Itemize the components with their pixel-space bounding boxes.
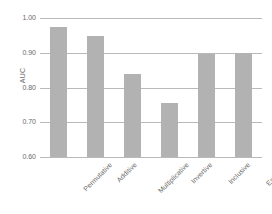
y-tick-label: 0.60 [4,153,36,160]
bar [198,54,215,157]
y-tick-label: 0.80 [4,84,36,91]
bar [161,103,178,157]
x-tick-label: Additive [115,161,138,184]
x-tick-label: Exclusive [264,161,272,187]
x-tick-label: Permutative [81,161,112,192]
y-tick-label: 0.90 [4,49,36,56]
x-tick-label: Inclusive [226,161,250,185]
y-tick-label: 1.00 [4,14,36,21]
x-axis-labels: PermutativeAdditiveMultiplicativeInverti… [40,157,262,214]
bars-group [40,18,262,157]
x-tick-label: Multiplicative [156,161,189,194]
bar [50,27,67,157]
bar [87,36,104,157]
x-tick-label: Invertive [189,161,213,185]
bar [235,53,252,157]
bar-chart: AUC 0.600.700.800.901.00 PermutativeAddi… [0,0,272,214]
bar [124,74,141,157]
y-tick-label: 0.70 [4,118,36,125]
